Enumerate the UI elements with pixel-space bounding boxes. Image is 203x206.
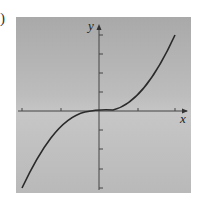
cubic-graph: y x — [0, 0, 203, 206]
x-axis-label: x — [179, 111, 186, 126]
y-axis-label: y — [86, 18, 94, 33]
y-axis-arrow-icon — [97, 24, 102, 30]
